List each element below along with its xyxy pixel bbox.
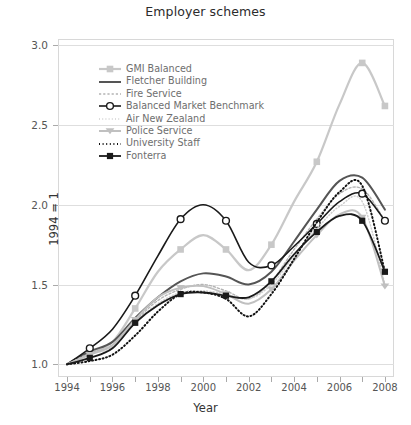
x-tick-mark: [226, 377, 227, 382]
chart-title: Employer schemes: [0, 4, 411, 19]
data-point-marker: [107, 66, 114, 73]
legend: GMI BalancedFletcher BuildingFire Servic…: [99, 63, 264, 162]
data-point-marker: [223, 293, 229, 299]
legend-swatch-icon: [99, 76, 121, 88]
y-tick-mark: [53, 285, 58, 286]
legend-item-fonterra[interactable]: Fonterra: [99, 150, 264, 162]
legend-swatch-icon: [99, 100, 121, 112]
legend-swatch-icon: [99, 63, 121, 75]
x-tick-mark: [158, 377, 159, 382]
data-point-marker: [107, 153, 113, 159]
legend-item-police-service[interactable]: Police Service: [99, 125, 264, 137]
data-point-marker: [382, 217, 389, 224]
x-tick-mark: [203, 377, 204, 382]
legend-swatch-icon: [99, 125, 121, 137]
x-tick-label: 2002: [236, 382, 261, 393]
data-point-marker: [359, 60, 366, 67]
y-tick-mark: [53, 45, 58, 46]
x-tick-mark: [181, 377, 182, 382]
data-point-marker: [132, 305, 139, 312]
x-tick-label: 2008: [372, 382, 397, 393]
x-tick-mark: [385, 377, 386, 382]
data-point-marker: [314, 229, 320, 235]
x-tick-mark: [362, 377, 363, 382]
y-tick-mark: [53, 364, 58, 365]
data-point-marker: [382, 269, 388, 275]
data-point-marker: [223, 246, 230, 253]
legend-label: Air New Zealand: [126, 113, 205, 125]
data-point-marker: [177, 246, 184, 253]
legend-item-fletcher-building[interactable]: Fletcher Building: [99, 75, 264, 87]
legend-item-balanced-market-benchmark[interactable]: Balanced Market Benchmark: [99, 100, 264, 112]
x-tick-mark: [249, 377, 250, 382]
legend-swatch-icon: [99, 113, 121, 125]
y-tick-label: 1.0: [0, 358, 48, 370]
y-tick-label: 3.0: [0, 39, 48, 51]
data-point-marker: [223, 217, 230, 224]
x-tick-label: 1994: [54, 382, 79, 393]
x-tick-mark: [135, 377, 136, 382]
legend-label: Fire Service: [126, 88, 182, 100]
legend-label: Fonterra: [126, 150, 166, 162]
y-tick-label: 2.0: [0, 199, 48, 211]
legend-swatch-icon: [99, 88, 121, 100]
y-tick-label: 2.5: [0, 119, 48, 131]
x-tick-mark: [340, 377, 341, 382]
x-tick-label: 2000: [191, 382, 216, 393]
x-axis-title: Year: [0, 401, 411, 415]
legend-item-air-new-zealand[interactable]: Air New Zealand: [99, 113, 264, 125]
legend-item-university-staff[interactable]: University Staff: [99, 137, 264, 149]
y-tick-mark: [53, 125, 58, 126]
x-tick-label: 1996: [100, 382, 125, 393]
series-path: [67, 214, 385, 364]
series-police-service: [67, 210, 389, 364]
x-tick-label: 2004: [281, 382, 306, 393]
legend-label: Police Service: [126, 125, 192, 137]
data-point-marker: [132, 292, 139, 299]
data-point-marker: [314, 158, 321, 165]
data-point-marker: [381, 283, 390, 289]
data-point-marker: [382, 103, 389, 110]
x-tick-mark: [90, 377, 91, 382]
x-tick-mark: [67, 377, 68, 382]
x-tick-mark: [112, 377, 113, 382]
legend-label: GMI Balanced: [126, 63, 192, 75]
chart-container: Employer schemes 1.01.52.02.53.0 1994199…: [0, 0, 411, 425]
data-point-marker: [268, 278, 274, 284]
x-tick-mark: [271, 377, 272, 382]
x-tick-mark: [294, 377, 295, 382]
data-point-marker: [268, 241, 275, 248]
data-point-marker: [132, 320, 138, 326]
legend-swatch-icon: [99, 138, 121, 150]
legend-swatch-icon: [99, 150, 121, 162]
legend-item-fire-service[interactable]: Fire Service: [99, 88, 264, 100]
x-tick-label: 1998: [145, 382, 170, 393]
data-point-marker: [177, 216, 184, 223]
data-point-marker: [107, 103, 114, 110]
data-point-marker: [87, 355, 93, 361]
legend-item-gmi-balanced[interactable]: GMI Balanced: [99, 63, 264, 75]
y-tick-label: 1.5: [0, 279, 48, 291]
data-point-marker: [86, 345, 93, 352]
legend-label: University Staff: [126, 137, 200, 149]
x-tick-label: 2006: [327, 382, 352, 393]
y-axis-title: 1994 = 1: [47, 159, 61, 279]
data-point-marker: [177, 291, 183, 297]
legend-label: Balanced Market Benchmark: [126, 100, 264, 112]
legend-label: Fletcher Building: [126, 75, 207, 87]
x-tick-mark: [317, 377, 318, 382]
data-point-marker: [268, 262, 275, 269]
data-point-marker: [359, 218, 365, 224]
